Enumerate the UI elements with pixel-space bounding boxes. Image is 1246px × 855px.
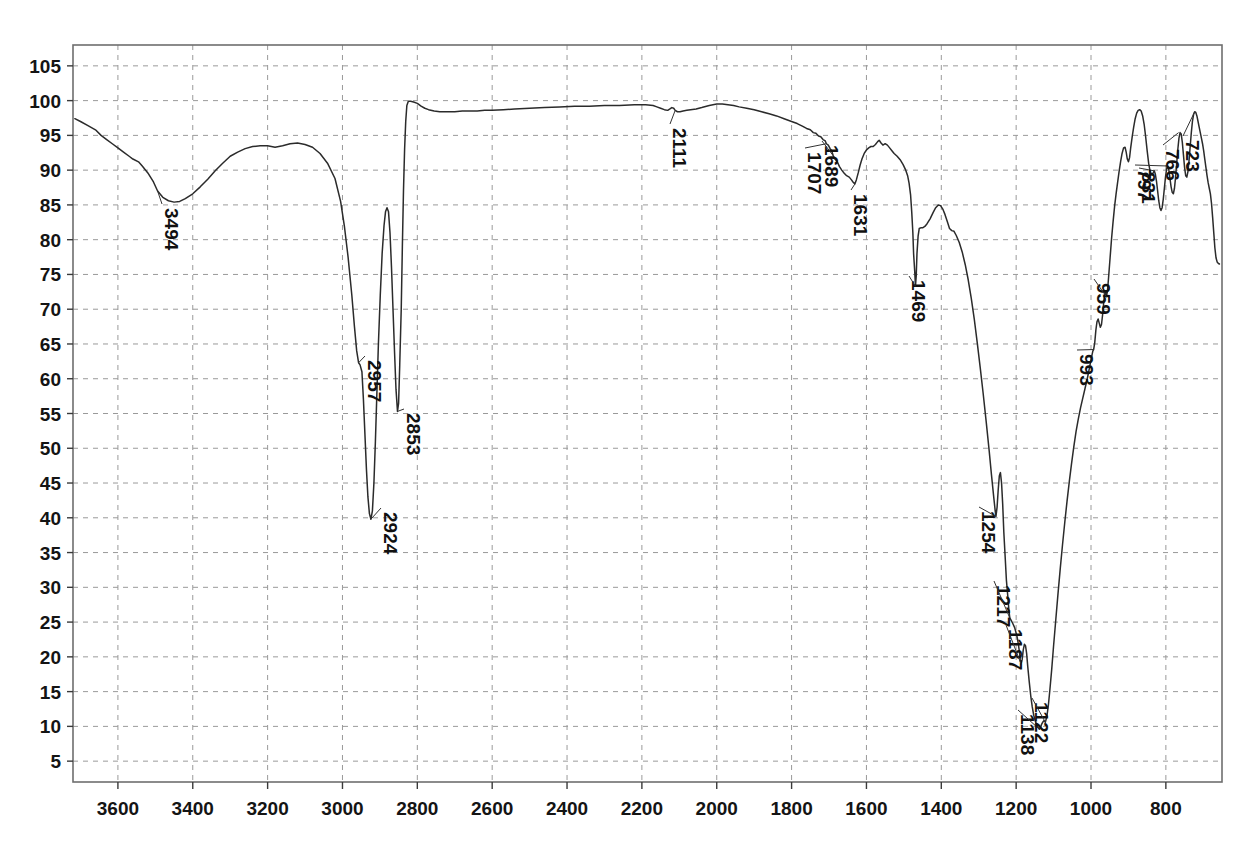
y-axis-tick-label: 85 (40, 195, 62, 216)
y-axis-tick-label: 75 (40, 264, 62, 285)
x-axis-tick-label: 800 (1150, 798, 1182, 819)
x-axis-tick-label: 1000 (1070, 798, 1112, 819)
x-axis-tick-label: 1800 (770, 798, 812, 819)
peak-leader-line (670, 110, 675, 124)
x-axis-tick-label: 2400 (546, 798, 588, 819)
peak-label: 2957 (364, 360, 385, 402)
peak-label: 1689 (821, 145, 842, 187)
peak-label: 2111 (669, 128, 690, 169)
y-axis-tick-label: 40 (40, 508, 61, 529)
peak-label: 1122 (1031, 702, 1052, 743)
x-axis-tick-label: 1400 (920, 798, 962, 819)
x-axis-tick-label: 2000 (696, 798, 738, 819)
y-axis-tick-label: 70 (40, 299, 61, 320)
y-axis-tick-label: 95 (40, 125, 62, 146)
peak-leader-line (851, 184, 855, 190)
peak-label: 766 (1162, 149, 1183, 181)
y-axis-tick-label: 65 (40, 334, 62, 355)
gridlines (73, 45, 1222, 782)
y-axis-tick-label: 15 (40, 682, 62, 703)
x-axis-tick-label: 1600 (845, 798, 887, 819)
x-axis-tick-label: 3000 (321, 798, 363, 819)
spectrum-plot: 5101520253035404550556065707580859095100… (0, 0, 1246, 855)
peak-label: 1631 (850, 194, 871, 237)
y-axis-tick-label: 80 (40, 230, 61, 251)
peak-label: 1254 (978, 511, 999, 554)
spectrum-trace (75, 101, 1220, 729)
peak-label: 2924 (380, 512, 401, 555)
peak-label: 723 (1182, 140, 1203, 172)
x-axis-tick-label: 2800 (396, 798, 438, 819)
peak-label: 2853 (403, 413, 424, 455)
axis-ticks (67, 66, 1166, 789)
y-axis-tick-label: 5 (50, 751, 61, 772)
peak-label: 797 (1134, 169, 1155, 201)
y-axis-tick-label: 35 (40, 543, 62, 564)
peak-label: 959 (1093, 283, 1114, 315)
peak-label: 1469 (908, 280, 929, 322)
peak-label: 993 (1076, 354, 1097, 386)
y-axis-tick-label: 20 (40, 647, 61, 668)
peak-label: 1217 (993, 585, 1014, 627)
y-axis-tick-label: 10 (40, 716, 61, 737)
y-axis-tick-label: 45 (40, 473, 62, 494)
y-axis-tick-label: 105 (29, 56, 61, 77)
x-axis-tick-label: 2200 (621, 798, 663, 819)
y-axis-tick-label: 100 (29, 91, 61, 112)
ir-spectrum-figure: 5101520253035404550556065707580859095100… (0, 0, 1246, 855)
y-axis-tick-label: 90 (40, 160, 61, 181)
y-axis-tick-label: 50 (40, 438, 61, 459)
peak-labels: 3494295729242853211117071689163114691254… (158, 110, 1203, 755)
x-axis-tick-label: 2600 (471, 798, 513, 819)
x-axis-tick-label: 3400 (172, 798, 214, 819)
x-axis-tick-label: 3200 (246, 798, 288, 819)
y-axis-tick-label: 25 (40, 612, 62, 633)
y-axis-tick-label: 30 (40, 577, 61, 598)
peak-label: 3494 (161, 208, 182, 251)
y-axis-tick-label: 60 (40, 369, 61, 390)
peak-leader-line (1163, 133, 1179, 145)
x-axis-tick-label: 1200 (995, 798, 1037, 819)
y-axis-tick-label: 55 (40, 404, 62, 425)
x-axis-tick-label: 3600 (97, 798, 139, 819)
